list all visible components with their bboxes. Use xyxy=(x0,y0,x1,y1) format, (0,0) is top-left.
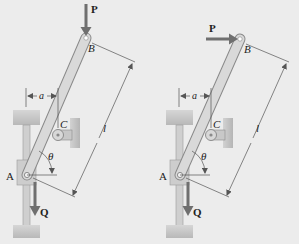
label-a-dimension: a xyxy=(192,90,197,101)
guide-top-support xyxy=(13,110,40,125)
guide-top-support xyxy=(166,110,193,125)
rod-ab xyxy=(24,36,88,178)
label-c: C xyxy=(60,118,68,130)
label-q: Q xyxy=(40,206,49,218)
panel-right: P B C A Q a θ l xyxy=(159,22,289,238)
label-q: Q xyxy=(193,206,202,218)
label-a-dimension: a xyxy=(39,90,44,101)
label-p: P xyxy=(91,3,98,15)
label-a-point: A xyxy=(6,170,14,182)
label-l: l xyxy=(256,122,259,134)
roller-axle xyxy=(56,133,59,136)
label-l: l xyxy=(103,122,106,134)
force-p-arrow xyxy=(81,4,92,36)
roller-axle xyxy=(209,133,212,136)
guide-bottom-support xyxy=(166,225,193,238)
diagram-canvas: P B C A Q a θ l xyxy=(0,0,299,244)
label-b: B xyxy=(244,43,251,55)
label-c: C xyxy=(213,118,221,130)
label-theta: θ xyxy=(48,150,54,162)
label-theta: θ xyxy=(201,150,207,162)
mechanism-figure: P B C A Q a θ l xyxy=(0,0,299,244)
label-p: P xyxy=(209,22,216,34)
pin-b xyxy=(238,37,242,41)
label-b: B xyxy=(88,42,95,54)
force-q-arrow xyxy=(183,182,194,216)
force-q-arrow xyxy=(30,182,41,216)
guide-bottom-support xyxy=(13,225,40,238)
pin-b xyxy=(84,36,88,40)
rod-ab xyxy=(177,37,242,178)
panel-left: P B C A Q a θ l xyxy=(6,3,135,238)
label-a-point: A xyxy=(159,170,167,182)
